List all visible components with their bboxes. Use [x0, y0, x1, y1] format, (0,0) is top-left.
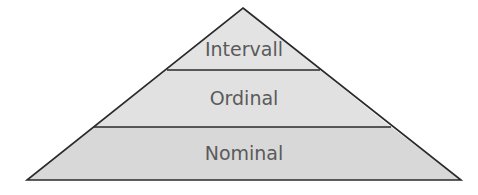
tier-label-nominal: Nominal [205, 142, 284, 164]
tier-label-ordinal: Ordinal [210, 87, 279, 109]
tier-label-intervall: Intervall [205, 38, 283, 60]
pyramid-diagram: Intervall Ordinal Nominal [0, 0, 478, 195]
